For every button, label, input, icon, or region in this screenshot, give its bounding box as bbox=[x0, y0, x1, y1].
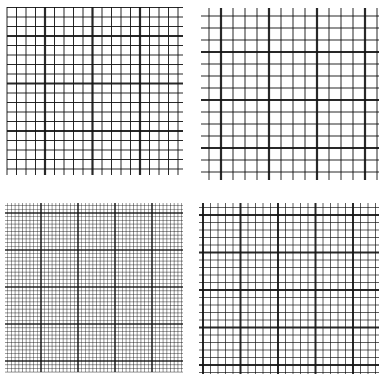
grid-bottom-left bbox=[5, 203, 183, 372]
grid-bottom-right bbox=[199, 203, 379, 374]
graph-paper-canvas bbox=[0, 0, 386, 378]
grid-top-right bbox=[201, 8, 379, 180]
grid-top-left bbox=[7, 7, 183, 175]
